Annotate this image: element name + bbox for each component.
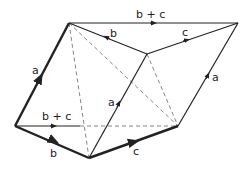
label-bc-bottom: b + c <box>42 110 71 123</box>
label-a-middle: a <box>108 96 115 109</box>
thin-edges <box>15 23 238 158</box>
arrowheads <box>38 23 208 143</box>
label-a-left: a <box>32 64 39 77</box>
thick-edges <box>15 23 178 158</box>
label-a-right: a <box>212 71 219 84</box>
label-c-bottom: c <box>133 145 139 158</box>
vector-diagram: a b b + c c a a b + c b c <box>0 0 251 172</box>
label-bc-top: b + c <box>136 8 165 21</box>
label-b-bottom: b <box>50 147 57 160</box>
label-c-top: c <box>182 26 188 39</box>
dashed-lines <box>69 23 178 158</box>
label-b-top: b <box>110 27 117 40</box>
